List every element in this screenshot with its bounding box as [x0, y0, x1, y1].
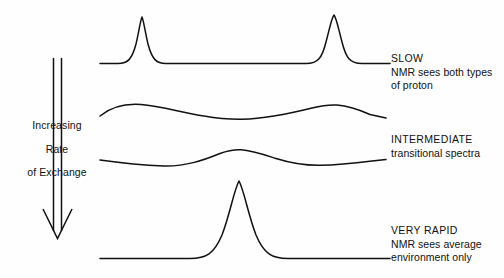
annotation-very-rapid: VERY RAPID NMR sees average environment …	[391, 224, 482, 265]
trace-intermediate-lower	[100, 150, 386, 166]
trace-very-rapid	[100, 181, 390, 259]
trace-intermediate-upper	[100, 104, 386, 119]
nmr-exchange-figure: Increasing Rate of Exchange SLOW NMR see…	[0, 0, 504, 278]
annotation-very-rapid-line-1: NMR sees average	[391, 238, 482, 252]
annotation-intermediate: INTERMEDIATE transitional spectra	[391, 133, 480, 160]
axis-label-of-exchange: of Exchange	[0, 166, 114, 180]
annotation-slow-line-1: NMR sees both types	[391, 66, 492, 80]
axis-label-increasing: Increasing	[0, 119, 114, 133]
annotation-intermediate-title: INTERMEDIATE	[391, 133, 480, 147]
annotation-slow-line-2: of proton	[391, 79, 492, 93]
trace-slow-exchange	[100, 15, 390, 64]
annotation-very-rapid-title: VERY RAPID	[391, 224, 482, 238]
annotation-intermediate-line-1: transitional spectra	[391, 147, 480, 161]
annotation-very-rapid-line-2: environment only	[391, 251, 482, 265]
arrow-head	[43, 209, 72, 239]
annotation-slow-title: SLOW	[391, 52, 492, 66]
axis-label-rate: Rate	[0, 143, 114, 157]
annotation-slow: SLOW NMR sees both types of proton	[391, 52, 492, 93]
